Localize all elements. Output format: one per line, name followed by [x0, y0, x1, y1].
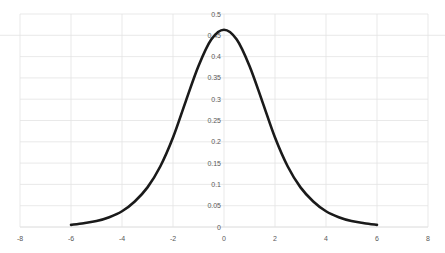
line-chart: 00.050.10.150.20.250.30.350.40.450.5 -8-… — [0, 0, 445, 253]
y-tick-label: 0.35 — [207, 74, 221, 81]
y-tick-label: 0.1 — [211, 181, 221, 188]
y-tick-label: 0.15 — [207, 160, 221, 167]
x-tick-label: 0 — [222, 235, 226, 242]
y-tick-label: 0.4 — [211, 53, 221, 60]
x-tick-label: -4 — [119, 235, 125, 242]
y-tick-label: 0.25 — [207, 117, 221, 124]
gridlines — [0, 14, 445, 227]
x-axis-ticks: -8-6-4-202468 — [17, 235, 430, 242]
y-tick-label: 0.05 — [207, 202, 221, 209]
y-tick-label: 0.2 — [211, 138, 221, 145]
x-tick-label: 2 — [273, 235, 277, 242]
x-tick-label: 8 — [426, 235, 430, 242]
x-tick-label: -6 — [68, 235, 74, 242]
y-tick-label: 0.5 — [211, 11, 221, 18]
y-tick-label: 0.3 — [211, 96, 221, 103]
x-tick-label: 6 — [375, 235, 379, 242]
x-tick-label: -2 — [170, 235, 176, 242]
x-tick-label: -8 — [17, 235, 23, 242]
x-tick-label: 4 — [324, 235, 328, 242]
y-tick-label: 0 — [217, 224, 221, 231]
